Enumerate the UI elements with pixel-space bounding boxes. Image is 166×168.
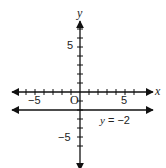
- line-label: y = −2: [99, 114, 130, 126]
- graph: y x O −5 5 5 −5 y = −2: [0, 0, 166, 168]
- y-tick-label-pos5: 5: [67, 39, 73, 51]
- x-tick-label-pos5: 5: [121, 94, 127, 106]
- y-tick-label-neg5: −5: [58, 131, 71, 143]
- y-axis-label: y: [76, 6, 83, 20]
- origin-label: O: [70, 93, 79, 107]
- x-tick-label-neg5: −5: [28, 94, 41, 106]
- x-axis-label: x: [154, 84, 161, 98]
